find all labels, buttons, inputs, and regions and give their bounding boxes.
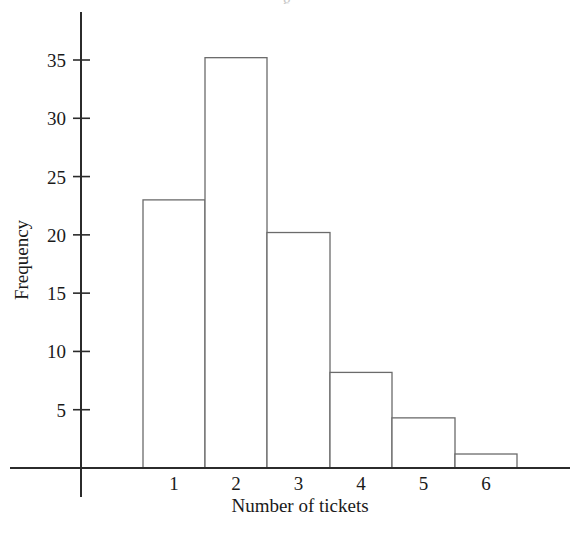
histogram-bar <box>330 372 392 468</box>
y-tick-label: 5 <box>57 400 67 421</box>
x-tick-label: 3 <box>294 473 304 494</box>
y-tick-label: 20 <box>47 225 66 246</box>
y-tick-label: 30 <box>47 108 66 129</box>
x-tick-label: 2 <box>231 473 241 494</box>
histogram-bar <box>455 454 517 468</box>
x-tick-label: 6 <box>481 473 491 494</box>
y-tick-label: 10 <box>47 341 66 362</box>
histogram-bar <box>143 200 205 468</box>
y-tick-label: 25 <box>47 167 66 188</box>
x-ticks-group: 123456 <box>169 473 491 494</box>
histogram-bar <box>205 58 267 468</box>
x-axis-label: Number of tickets <box>231 495 368 516</box>
bars-group <box>143 58 517 468</box>
x-tick-label: 5 <box>419 473 429 494</box>
x-tick-label: 1 <box>169 473 179 494</box>
y-tick-label: 35 <box>47 50 66 71</box>
histogram-bar <box>267 233 330 468</box>
chart-canvas: 5101520253035 123456 Frequency Number of… <box>0 0 574 536</box>
y-tick-label: 15 <box>47 283 66 304</box>
cropped-title-artifact: g <box>0 0 574 4</box>
y-ticks-group: 5101520253035 <box>47 50 90 421</box>
x-tick-label: 4 <box>356 473 366 494</box>
histogram-chart: g 5101520253035 123456 Frequency Number … <box>0 0 574 536</box>
histogram-bar <box>392 418 455 468</box>
y-axis-label: Frequency <box>11 219 32 300</box>
